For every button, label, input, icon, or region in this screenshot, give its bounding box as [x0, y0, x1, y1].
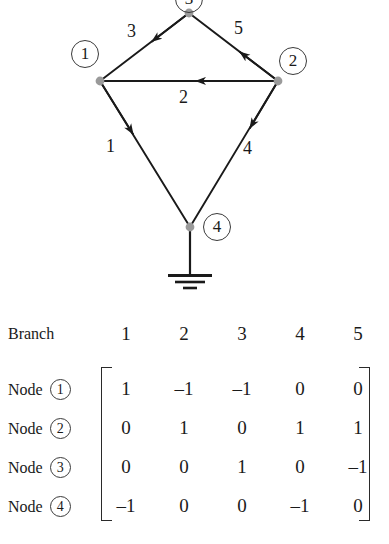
branch-label-4: 4: [243, 139, 252, 157]
matrix-row-header-3: Node3: [8, 457, 71, 478]
matrix-cell-r1c2: –1: [161, 379, 207, 399]
matrix-col-header-5: 5: [338, 324, 378, 344]
row-node-word: Node: [8, 459, 43, 477]
matrix-cell-r3c3: 1: [219, 457, 265, 477]
row-node-circle-1: 1: [50, 379, 71, 400]
matrix-corner-label: Branch: [8, 325, 54, 343]
matrix-col-header-1: 1: [106, 324, 146, 344]
matrix-cell-r3c5: –1: [335, 457, 381, 477]
matrix-cell-r2c1: 0: [103, 418, 149, 438]
matrix-cell-r2c3: 0: [219, 418, 265, 438]
node-dot-2: [274, 77, 283, 86]
matrix-cell-r4c3: 0: [219, 496, 265, 516]
branch-arrow-1: [100, 81, 133, 134]
branch-arrow-3: [152, 13, 189, 42]
matrix-cell-r1c1: 1: [103, 379, 149, 399]
matrix-cell-r4c5: 0: [335, 496, 381, 516]
row-node-circle-2: 2: [50, 418, 71, 439]
matrix-cell-r3c1: 0: [103, 457, 149, 477]
node-label-2: 2: [279, 47, 307, 75]
matrix-cell-r2c4: 1: [277, 418, 323, 438]
matrix-row-header-1: Node1: [8, 379, 71, 400]
branch-label-2: 2: [179, 88, 188, 106]
matrix-row-header-4: Node4: [8, 496, 71, 517]
graph-diagram: 1 2 3 4 1 2 3 4 5: [0, 0, 389, 300]
row-node-circle-4: 4: [50, 496, 71, 517]
graph-svg: [0, 0, 389, 300]
matrix-col-header-3: 3: [222, 324, 262, 344]
row-node-word: Node: [8, 498, 43, 516]
branch-label-5: 5: [234, 19, 243, 37]
ground-symbol: [168, 227, 212, 288]
matrix-col-header-4: 4: [280, 324, 320, 344]
matrix-cell-r4c1: –1: [103, 496, 149, 516]
incidence-matrix: Branch 1 2 3 4 5 Node1 Node2 Node3 Node4…: [0, 300, 389, 544]
row-node-word: Node: [8, 420, 43, 438]
node-dot-1: [96, 77, 105, 86]
matrix-col-header-2: 2: [164, 324, 204, 344]
matrix-cell-r1c5: 0: [335, 379, 381, 399]
node-label-1: 1: [71, 40, 99, 68]
branch-label-1: 1: [106, 137, 115, 155]
branch-label-3: 3: [127, 22, 136, 40]
matrix-cell-r4c2: 0: [161, 496, 207, 516]
figure-page: 1 2 3 4 1 2 3 4 5 Branch 1 2 3 4 5 Node1…: [0, 0, 389, 544]
branch-arrow-4: [250, 81, 278, 128]
matrix-cell-r3c2: 0: [161, 457, 207, 477]
matrix-cell-r1c4: 0: [277, 379, 323, 399]
node-label-4: 4: [203, 213, 231, 241]
matrix-cell-r1c3: –1: [219, 379, 265, 399]
row-node-circle-3: 3: [50, 457, 71, 478]
branch-edges: [100, 13, 278, 227]
matrix-cell-r2c5: 1: [335, 418, 381, 438]
matrix-cell-r4c4: –1: [277, 496, 323, 516]
matrix-cell-r2c2: 1: [161, 418, 207, 438]
row-node-word: Node: [8, 381, 43, 399]
branch-arrow-5: [240, 52, 278, 81]
matrix-row-header-2: Node2: [8, 418, 71, 439]
matrix-cell-r3c4: 0: [277, 457, 323, 477]
node-dot-4: [186, 223, 195, 232]
